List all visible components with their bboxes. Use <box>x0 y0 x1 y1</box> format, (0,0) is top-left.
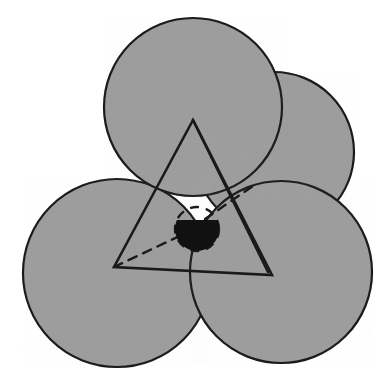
figure-root: Sphere packing with interstitial void sp… <box>0 0 392 388</box>
sphere-packing-diagram: Sphere packing with interstitial void sp… <box>0 0 392 388</box>
